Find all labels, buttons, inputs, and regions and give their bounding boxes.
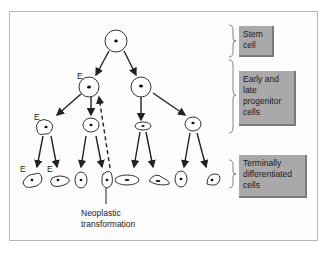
label-line: cell (243, 40, 268, 51)
erythroid-marker: E (77, 71, 83, 81)
arrow (96, 51, 109, 75)
erythroid-marker: E (47, 164, 53, 174)
brace-stem (229, 25, 236, 57)
label-line: Stem (243, 29, 268, 40)
label-line: Neoplastic (81, 208, 135, 219)
label-line: late (243, 85, 290, 96)
stem-cell-label: Stem cell (239, 26, 274, 57)
label-line: Early and (243, 74, 290, 85)
label-line: Terminally (243, 158, 301, 169)
brace-terminal (229, 160, 236, 188)
progenitor-cells-label: Early and late progenitor cells (239, 71, 296, 126)
erythroid-marker: E (34, 112, 40, 122)
label-line: cells (243, 107, 290, 118)
neoplastic-transformation-label: Neoplastic transformation (81, 208, 135, 230)
label-line: differentiated (243, 169, 301, 180)
erythroid-marker: E (20, 164, 26, 174)
label-line: progenitor (243, 96, 290, 107)
label-line: transformation (81, 219, 135, 230)
terminal-cells-label: Terminally differentiated cells (239, 155, 307, 198)
brace-progenitor (229, 60, 236, 133)
label-line: cells (243, 180, 301, 191)
cell-lineage-tree (0, 0, 329, 254)
